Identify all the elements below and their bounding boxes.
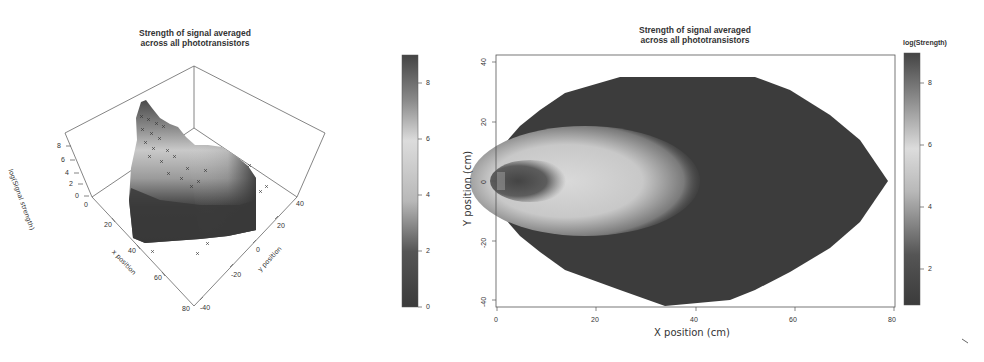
x3d-tick-20: 20 bbox=[104, 221, 112, 228]
left-title-line1: Strength of signal averaged bbox=[120, 28, 270, 38]
y3d-tick-40: 40 bbox=[296, 200, 304, 207]
heatmap-plot bbox=[470, 53, 924, 311]
x3d-tick-0: 0 bbox=[84, 201, 88, 208]
z-tick-6: 6 bbox=[61, 156, 65, 163]
x3d-tick-80: 80 bbox=[182, 305, 190, 312]
y3d-tick-0: 0 bbox=[256, 246, 260, 253]
y3d-tick-20: 20 bbox=[277, 222, 285, 229]
right-title-line1: Strength of signal averaged bbox=[620, 25, 770, 35]
left-title-line2: across all phototransistors bbox=[120, 38, 270, 48]
z-tick-8: 8 bbox=[57, 142, 61, 149]
right-colorbar bbox=[904, 53, 920, 305]
x-tick-80: 80 bbox=[888, 316, 896, 323]
surface-3d-plot bbox=[65, 66, 325, 306]
mid-cbar-tick-4: 4 bbox=[426, 191, 430, 198]
cbar-tick-2: 2 bbox=[928, 265, 932, 272]
z-tick-0: 0 bbox=[75, 192, 79, 199]
x3d-tick-40: 40 bbox=[128, 247, 136, 254]
cbar-tick-4: 4 bbox=[928, 203, 932, 210]
colorbar-label: log(Strength) bbox=[903, 39, 947, 46]
figure-canvas bbox=[0, 0, 984, 362]
right-plot-title: Strength of signal averaged across all p… bbox=[620, 25, 770, 45]
y-tick-20: 20 bbox=[480, 118, 487, 126]
x-tick-60: 60 bbox=[789, 316, 797, 323]
y-tick-0: 0 bbox=[480, 180, 487, 184]
y-tick-40: 40 bbox=[480, 58, 487, 66]
y3d-tick-neg40: -40 bbox=[200, 304, 210, 311]
cbar-tick-8: 8 bbox=[928, 79, 932, 86]
x3d-tick-60: 60 bbox=[154, 274, 162, 281]
mid-cbar-tick-8: 8 bbox=[426, 79, 430, 86]
mid-cbar-tick-6: 6 bbox=[426, 135, 430, 142]
middle-colorbar bbox=[402, 55, 422, 307]
x-tick-0: 0 bbox=[494, 316, 498, 323]
stray-mark bbox=[962, 339, 968, 343]
x-tick-40: 40 bbox=[690, 316, 698, 323]
y-tick-neg20: -20 bbox=[480, 238, 487, 248]
z-tick-2: 2 bbox=[69, 180, 73, 187]
left-plot-title: Strength of signal averaged across all p… bbox=[120, 28, 270, 48]
x-tick-20: 20 bbox=[591, 316, 599, 323]
right-title-line2: across all phototransistors bbox=[620, 35, 770, 45]
y-axis-label: Y position (cm) bbox=[462, 151, 473, 226]
mid-cbar-tick-2: 2 bbox=[426, 247, 430, 254]
cbar-tick-6: 6 bbox=[928, 141, 932, 148]
mid-cbar-tick-0: 0 bbox=[426, 303, 430, 310]
y3d-tick-neg20: -20 bbox=[231, 271, 241, 278]
x-axis-label: X position (cm) bbox=[654, 327, 730, 338]
y-tick-neg40: -40 bbox=[480, 297, 487, 307]
z-tick-4: 4 bbox=[65, 169, 69, 176]
